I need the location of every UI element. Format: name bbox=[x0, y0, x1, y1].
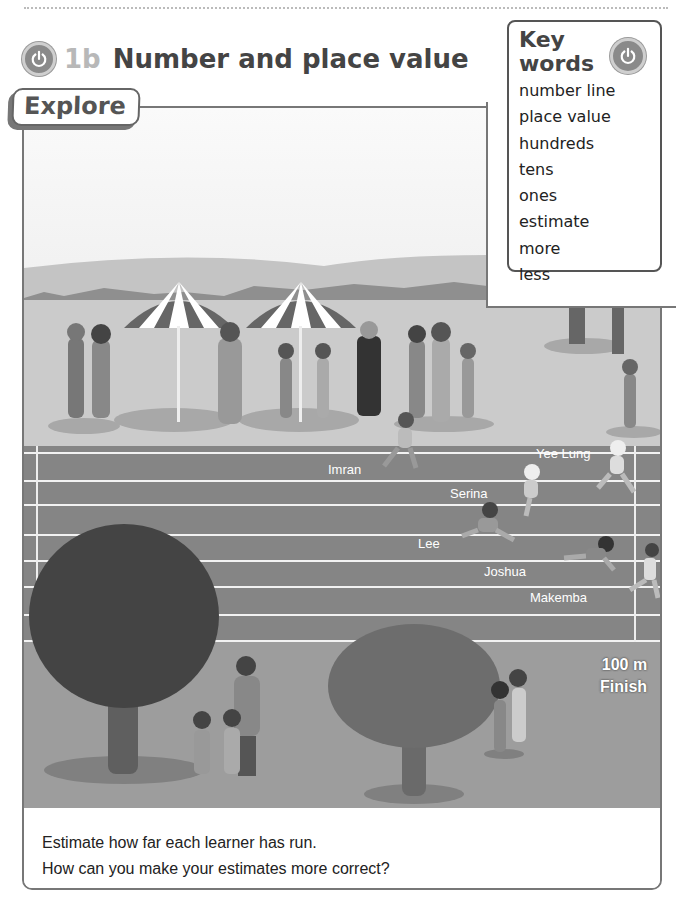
key-words-list: number line place value hundreds tens on… bbox=[519, 78, 650, 288]
key-words-title: Key words bbox=[519, 28, 594, 76]
finish-marker: 100 m Finish bbox=[600, 654, 647, 698]
question-1: Estimate how far each learner has run. bbox=[42, 830, 642, 856]
key-word-item: place value bbox=[519, 104, 650, 130]
lesson-title: 1b Number and place value bbox=[22, 42, 469, 76]
key-word-item: number line bbox=[519, 78, 650, 104]
lesson-number: 1b bbox=[64, 44, 101, 74]
finish-distance: 100 m bbox=[600, 654, 647, 676]
power-icon bbox=[22, 42, 56, 76]
runner-label-yee-lung: Yee Lung bbox=[536, 446, 590, 461]
lesson-heading: Number and place value bbox=[113, 44, 469, 74]
key-word-item: less bbox=[519, 262, 650, 288]
key-words-title-line2: words bbox=[519, 52, 594, 76]
question-2: How can you make your estimates more cor… bbox=[42, 856, 642, 882]
key-words-box: Key words number line place value hundre… bbox=[507, 20, 662, 272]
explore-label: Explore bbox=[24, 92, 127, 120]
header-dotted-rule bbox=[24, 7, 668, 9]
key-word-item: tens bbox=[519, 157, 650, 183]
key-word-item: ones bbox=[519, 183, 650, 209]
key-word-item: hundreds bbox=[519, 131, 650, 157]
explore-tab: Explore bbox=[11, 88, 140, 126]
trees-and-people-illustration bbox=[24, 508, 660, 808]
key-word-item: more bbox=[519, 236, 650, 262]
finish-text: Finish bbox=[600, 676, 647, 698]
key-words-title-line1: Key bbox=[519, 28, 594, 52]
power-icon bbox=[610, 38, 646, 74]
key-word-item: estimate bbox=[519, 209, 650, 235]
runner-label-imran: Imran bbox=[328, 462, 361, 477]
explore-questions: Estimate how far each learner has run. H… bbox=[24, 808, 660, 890]
runner-label-serina: Serina bbox=[450, 486, 488, 501]
